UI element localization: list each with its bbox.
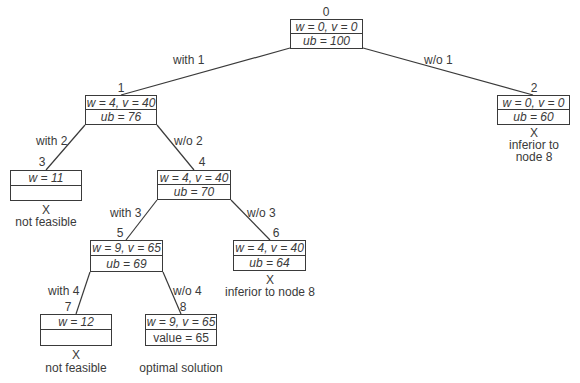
node-3-number: 3	[39, 155, 46, 169]
node-1-bound: ub = 76	[86, 110, 156, 124]
node-8-state: w = 9, v = 65	[146, 315, 216, 330]
edge-label-with-2: with 2	[36, 134, 67, 148]
edge-label-without-3: w/o 3	[247, 206, 276, 220]
node-7: w = 12	[40, 314, 112, 346]
edge-label-without-1: w/o 1	[424, 53, 453, 67]
node-8-value: value = 65	[146, 330, 216, 345]
node-6-state: w = 4, v = 40	[234, 241, 305, 256]
node-6: w = 4, v = 40 ub = 64	[233, 240, 306, 271]
edge-label-without-2: w/o 2	[174, 134, 203, 148]
node-4-state: w = 4, v = 40	[158, 171, 230, 185]
node-6-note: inferior to node 8	[225, 285, 315, 299]
node-6-bound: ub = 64	[234, 256, 305, 271]
node-4: w = 4, v = 40 ub = 70	[157, 170, 231, 200]
node-2: w = 0, v = 0 ub = 60	[497, 95, 570, 125]
node-1-state: w = 4, v = 40	[86, 96, 156, 110]
edge-0-1	[121, 48, 290, 95]
node-0-bound: ub = 100	[291, 34, 362, 48]
node-0-state: w = 0, v = 0	[291, 20, 362, 34]
node-0-number: 0	[323, 5, 330, 19]
node-2-note-line2: node 8	[516, 150, 553, 164]
node-2-state: w = 0, v = 0	[498, 96, 569, 110]
edge-label-with-4: with 4	[48, 284, 79, 298]
node-0: w = 0, v = 0 ub = 100	[290, 19, 363, 49]
node-7-prune-mark: X	[72, 348, 80, 362]
node-2-bound: ub = 60	[498, 110, 569, 124]
node-3-bound	[11, 186, 81, 201]
node-5-bound: ub = 69	[91, 256, 162, 271]
node-1: w = 4, v = 40 ub = 76	[85, 95, 157, 125]
node-7-number: 7	[65, 300, 72, 314]
node-1-number: 1	[118, 81, 125, 95]
node-8-number: 8	[180, 300, 187, 314]
node-3-state: w = 11	[11, 171, 81, 186]
node-4-bound: ub = 70	[158, 185, 230, 199]
node-8: w = 9, v = 65 value = 65	[145, 314, 217, 346]
edge-label-without-4: w/o 4	[173, 284, 202, 298]
edge-label-with-3: with 3	[110, 206, 141, 220]
node-4-number: 4	[199, 155, 206, 169]
node-6-number: 6	[273, 226, 280, 240]
node-5-number: 5	[117, 226, 124, 240]
node-3: w = 11	[10, 170, 82, 201]
node-5: w = 9, v = 65 ub = 69	[90, 240, 163, 272]
node-7-bound	[41, 330, 111, 345]
node-5-state: w = 9, v = 65	[91, 241, 162, 256]
node-8-note: optimal solution	[139, 361, 222, 375]
node-2-number: 2	[531, 81, 538, 95]
node-7-note: not feasible	[45, 361, 106, 375]
node-3-note: not feasible	[15, 215, 76, 229]
node-7-state: w = 12	[41, 315, 111, 330]
edge-label-with-1: with 1	[173, 53, 204, 67]
